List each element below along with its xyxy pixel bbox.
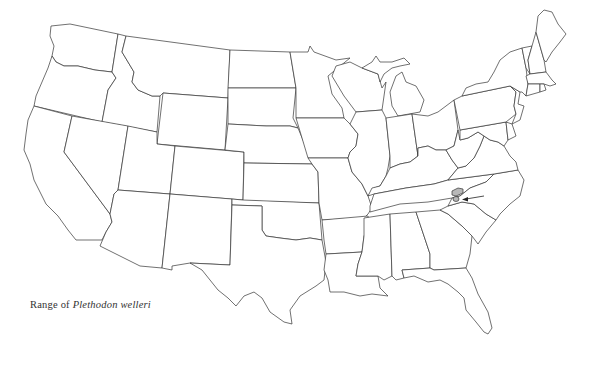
- caption-species-name: Plethodon welleri: [73, 299, 151, 310]
- state-delaware: [506, 122, 516, 140]
- state-colorado: [170, 146, 244, 200]
- state-connecticut: [526, 84, 540, 96]
- state-michigan-lower: [390, 72, 424, 116]
- state-north-dakota: [228, 50, 296, 88]
- state-rhode-island: [540, 84, 546, 92]
- range-patch-south: [453, 197, 459, 202]
- state-south-dakota: [228, 88, 298, 128]
- state-florida: [402, 268, 492, 334]
- state-wyoming: [157, 93, 228, 150]
- map-caption: Range of Plethodon welleri: [30, 299, 151, 310]
- state-kansas: [243, 163, 319, 203]
- state-new-york: [462, 48, 528, 96]
- caption-prefix: Range of: [30, 299, 70, 310]
- us-states-map: [0, 0, 590, 366]
- state-montana: [122, 36, 230, 98]
- state-new-mexico: [162, 194, 232, 270]
